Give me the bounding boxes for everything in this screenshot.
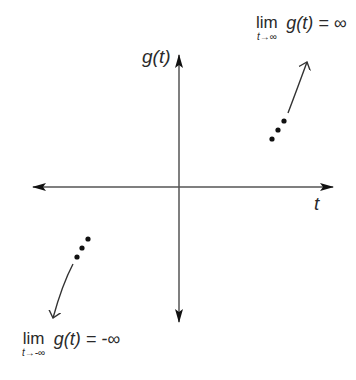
limit-expression: g(t) = ∞ xyxy=(286,13,346,33)
y-axis-label: g(t) xyxy=(142,46,171,68)
x-axis-label: t xyxy=(314,193,319,215)
lim-operator: lim xyxy=(256,14,278,31)
limit-annotation-positive: lim t→∞ g(t) = ∞ xyxy=(256,14,347,42)
arrow-down-left-icon xyxy=(53,264,73,318)
lim-subscript: t→∞ xyxy=(256,32,278,42)
diagram-canvas xyxy=(0,0,356,380)
lim-subscript: t→-∞ xyxy=(22,348,45,358)
lim-operator: lim xyxy=(23,330,45,347)
continuation-dots-top-right xyxy=(269,118,286,141)
arrow-up-right-icon xyxy=(288,62,307,113)
continuation-dots-bottom-left xyxy=(74,236,90,259)
limit-expression: g(t) = -∞ xyxy=(54,329,120,349)
limit-annotation-negative: lim t→-∞ g(t) = -∞ xyxy=(22,330,120,358)
